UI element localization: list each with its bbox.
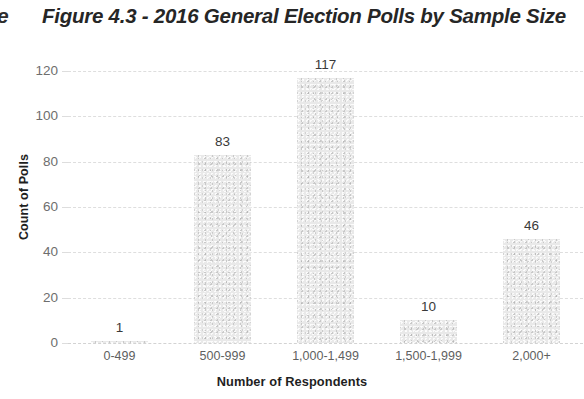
- x-tick-label-1,000-1,499: 1,000-1,499: [271, 349, 381, 363]
- data-label-2,000+: 46: [502, 219, 562, 233]
- chart-title: Figure 4.3 - 2016 General Election Polls…: [42, 3, 577, 29]
- data-label-1,000-1,499: 117: [296, 58, 356, 72]
- data-label-500-999: 83: [193, 135, 253, 149]
- figure-4-3-bar-chart: Figure 4.3 - 2016 General Election Polls…: [0, 0, 584, 399]
- data-label-1,500-1,999: 10: [399, 300, 459, 314]
- y-tick-label-60: 60: [43, 200, 58, 214]
- data-label-0-499: 1: [90, 321, 150, 335]
- y-axis-title: Count of Polls: [17, 137, 31, 257]
- y-axis: Count of Polls 020406080100120: [0, 0, 68, 399]
- bar-0-499[interactable]: [91, 341, 148, 343]
- plot-area: [68, 71, 583, 343]
- y-tick-label-40: 40: [43, 245, 58, 259]
- bar-2,000+[interactable]: [503, 239, 560, 343]
- x-axis-title: Number of Respondents: [0, 374, 584, 389]
- x-tick-label-500-999: 500-999: [168, 349, 278, 363]
- bar-1,500-1,999[interactable]: [400, 320, 457, 343]
- x-tick-label-0-499: 0-499: [65, 349, 175, 363]
- gridline-0: [68, 343, 583, 344]
- y-tick-label-20: 20: [43, 291, 58, 305]
- x-tick-label-2,000+: 2,000+: [477, 349, 584, 363]
- bar-1,000-1,499[interactable]: [297, 78, 354, 343]
- bar-500-999[interactable]: [194, 155, 251, 343]
- y-tick-label-80: 80: [43, 155, 58, 169]
- y-tick-label-0: 0: [50, 336, 58, 350]
- y-tick-label-120: 120: [35, 64, 58, 78]
- x-tick-label-1,500-1,999: 1,500-1,999: [374, 349, 484, 363]
- y-tick-label-100: 100: [35, 109, 58, 123]
